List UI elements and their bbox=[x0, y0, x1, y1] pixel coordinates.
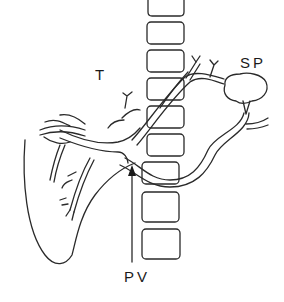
label-liver: T bbox=[95, 66, 107, 83]
pv-arrow bbox=[128, 165, 136, 262]
label-portal-vein: PV bbox=[124, 268, 150, 285]
portal-venous-diagram: T SP PV bbox=[0, 0, 284, 302]
liver-outline bbox=[24, 140, 135, 264]
portal-confluence bbox=[60, 92, 140, 163]
label-spleen: SP bbox=[240, 54, 266, 71]
spleen bbox=[224, 73, 267, 103]
liver-branches bbox=[40, 115, 94, 220]
vertebral-column bbox=[142, 0, 184, 259]
